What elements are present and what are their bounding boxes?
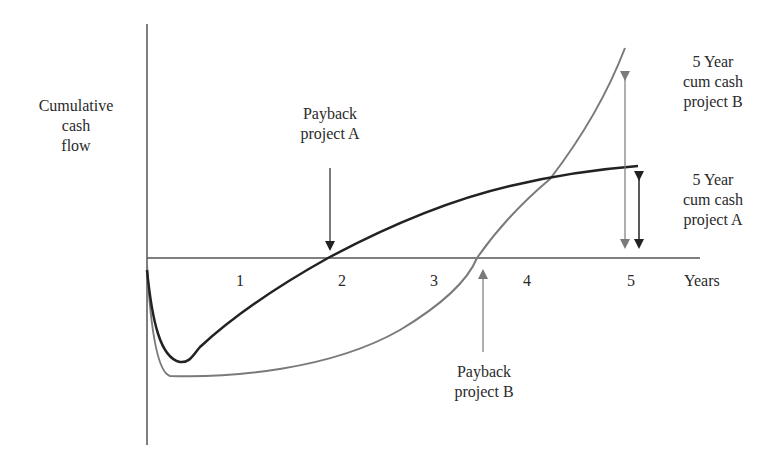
project-b-curve bbox=[147, 48, 625, 376]
y-axis-label: Cumulative cash flow bbox=[26, 96, 126, 156]
x-tick-1: 1 bbox=[236, 272, 244, 290]
cum-cash-a-label-line: 5 Year bbox=[658, 170, 768, 190]
cum-cash-b-label: 5 Year cum cash project B bbox=[658, 52, 768, 112]
cum-cash-a-label-line: cum cash bbox=[658, 190, 768, 210]
cum-cash-b-label-line: 5 Year bbox=[658, 52, 768, 72]
project-a-curve bbox=[147, 166, 638, 362]
payback-b-label: Payback project B bbox=[434, 362, 534, 402]
y-axis-label-line: flow bbox=[26, 136, 126, 156]
payback-b-label-line: project B bbox=[434, 382, 534, 402]
y-axis-label-line: cash bbox=[26, 116, 126, 136]
x-axis-label: Years bbox=[684, 272, 720, 290]
cum-cash-a-label: 5 Year cum cash project A bbox=[658, 170, 768, 230]
y-axis-label-line: Cumulative bbox=[26, 96, 126, 116]
cum-cash-a-label-line: project A bbox=[658, 210, 768, 230]
x-tick-5: 5 bbox=[627, 272, 635, 290]
cum-cash-b-label-line: cum cash bbox=[658, 72, 768, 92]
payback-a-label-line: project A bbox=[280, 124, 380, 144]
payback-a-label-line: Payback bbox=[280, 104, 380, 124]
cum-cash-b-label-line: project B bbox=[658, 92, 768, 112]
x-tick-3: 3 bbox=[430, 272, 438, 290]
payback-b-label-line: Payback bbox=[434, 362, 534, 382]
payback-a-label: Payback project A bbox=[280, 104, 380, 144]
x-tick-2: 2 bbox=[338, 272, 346, 290]
x-tick-4: 4 bbox=[523, 272, 531, 290]
